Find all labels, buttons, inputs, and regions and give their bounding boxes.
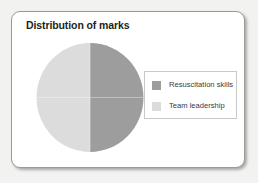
chart-card: Distribution of marks Resuscitation skil… <box>11 11 245 168</box>
pie-chart <box>36 42 144 153</box>
pie-chart-svg <box>36 42 144 153</box>
page-title: Distribution of marks <box>26 19 130 31</box>
legend-item-label: Team leadership <box>169 101 225 111</box>
legend-item-label: Resuscitation skills <box>169 80 233 90</box>
legend-item-team-leadership[interactable]: Team leadership <box>152 101 225 111</box>
legend-item-resuscitation-skills[interactable]: Resuscitation skills <box>152 80 233 90</box>
legend-swatch-icon <box>152 102 161 111</box>
legend: Resuscitation skills Team leadership <box>144 71 237 119</box>
legend-swatch-icon <box>152 81 161 90</box>
